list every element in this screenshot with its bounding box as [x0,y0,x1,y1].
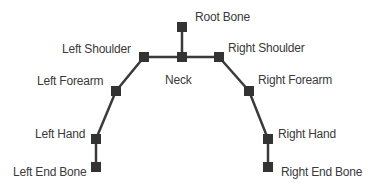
label-right-hand: Right Hand [278,127,336,141]
joint-rend [263,162,273,172]
bone-edge-rshoulder-rforearm [219,57,249,91]
label-root-bone: Root Bone [195,10,250,24]
joint-rhand [263,134,273,144]
bone-edge-lforearm-lhand [96,91,116,139]
label-left-end-bone: Left End Bone [13,165,86,179]
joint-rforearm [244,86,254,96]
bone-graph [0,0,374,188]
label-right-shoulder: Right Shoulder [228,41,305,55]
joint-lhand [91,134,101,144]
label-neck: Neck [165,73,192,87]
joint-lforearm [111,86,121,96]
label-left-forearm: Left Forearm [37,74,103,88]
bone-hierarchy-diagram: Root Bone Neck Left Shoulder Right Shoul… [0,0,374,188]
bone-edge-rforearm-rhand [249,91,268,139]
label-right-forearm: Right Forearm [258,73,332,87]
joint-lend [91,162,101,172]
joint-lshoulder [139,52,149,62]
label-left-hand: Left Hand [35,127,85,141]
label-right-end-bone: Right End Bone [281,165,362,179]
bone-edge-lshoulder-lforearm [116,57,144,91]
joint-root [177,22,187,32]
joint-neck [177,52,187,62]
label-left-shoulder: Left Shoulder [62,42,131,56]
joint-rshoulder [214,52,224,62]
